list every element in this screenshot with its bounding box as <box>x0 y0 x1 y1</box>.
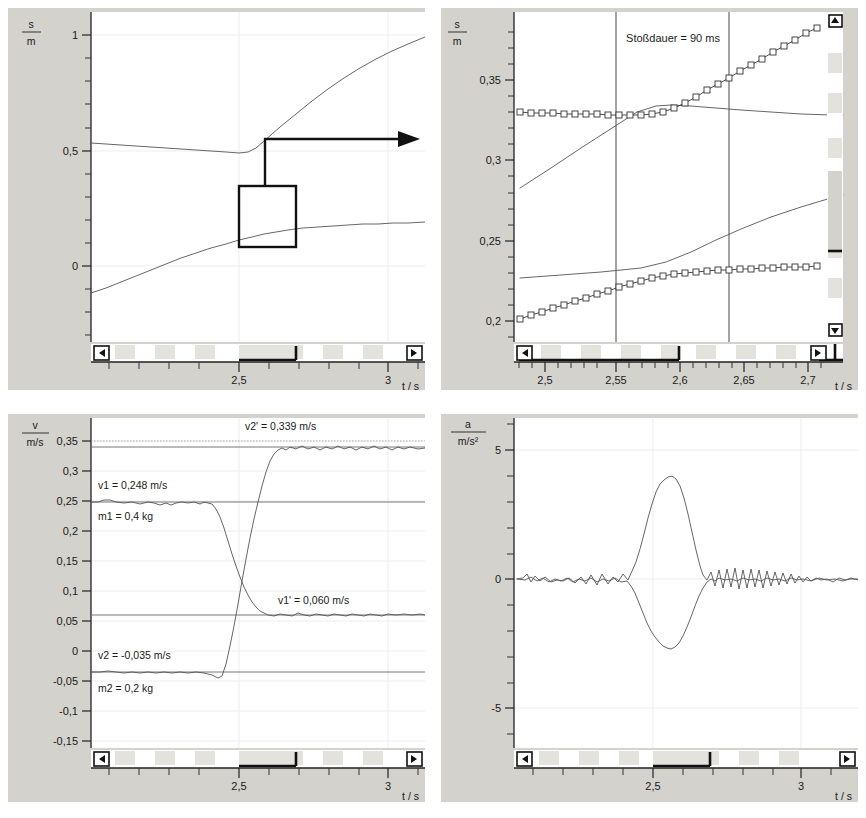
x-tick-label: 3 <box>385 780 391 792</box>
x-axis-label: t / s <box>835 790 852 802</box>
top-left-svg: 1 0,5 0 s m <box>8 8 425 390</box>
panel-displacement-zoomed: 0,35 0,3 0,25 0,2 s m Stoßdauer = 90 ms <box>441 8 858 390</box>
x-tick-label: 2,5 <box>231 374 246 386</box>
plot-area <box>91 12 425 342</box>
y-tick-label: 0,15 <box>57 555 78 567</box>
y-tick-label: 0,2 <box>63 525 78 537</box>
y-tick-label: 0 <box>72 260 78 272</box>
x-tick-label: 2,65 <box>733 374 754 386</box>
y-unit-numerator: s <box>28 18 33 30</box>
y-tick-label: 0,2 <box>486 315 501 327</box>
y-tick-label: 0,3 <box>63 465 78 477</box>
x-tick-label: 2,5 <box>231 780 246 792</box>
annotation-v2: v2 = -0,035 m/s <box>98 649 171 661</box>
horizontal-scrollbar[interactable] <box>514 344 843 362</box>
y-unit-denominator: m <box>453 35 462 47</box>
y-tick-label: 0,1 <box>63 585 78 597</box>
figure-sheet: 1 0,5 0 s m <box>0 0 866 818</box>
top-right-svg: 0,35 0,3 0,25 0,2 s m Stoßdauer = 90 ms <box>441 8 858 390</box>
vscrollbar-thumb[interactable] <box>828 171 842 251</box>
y-tick-label: 0,35 <box>57 435 78 447</box>
x-axis-label: t / s <box>402 790 419 802</box>
plot-area <box>514 12 843 342</box>
y-tick-label: 0 <box>495 573 501 585</box>
y-tick-label: -0,1 <box>59 705 78 717</box>
panel-displacement-overview: 1 0,5 0 s m <box>8 8 425 390</box>
y-tick-label: -5 <box>491 702 501 714</box>
annotation-v1: v1 = 0,248 m/s <box>98 479 167 491</box>
bottom-left-svg: 0,35 0,3 0,25 0,2 0,15 0,1 0,05 0 -0,05 … <box>8 414 425 802</box>
x-tick-label: 3 <box>798 780 804 792</box>
bottom-right-svg: 5 0 -5 a m/s² <box>441 414 858 802</box>
y-unit-numerator: v <box>32 419 38 431</box>
y-unit-denominator: m/s² <box>458 435 479 447</box>
panel-acceleration: 5 0 -5 a m/s² <box>441 414 858 802</box>
y-tick-label: 0,25 <box>57 495 78 507</box>
horizontal-scrollbar[interactable] <box>91 344 425 362</box>
annotation-m2: m2 = 0,2 kg <box>98 682 153 694</box>
plot-area <box>91 418 425 748</box>
y-unit-numerator: s <box>454 18 459 30</box>
x-tick-label: 3 <box>385 374 391 386</box>
annotation-v2-prime: v2' = 0,339 m/s <box>245 420 316 432</box>
vertical-scrollbar[interactable] <box>827 12 843 342</box>
annotation-v1-prime: v1' = 0,060 m/s <box>278 594 349 606</box>
y-unit-denominator: m/s <box>27 436 44 448</box>
collision-duration-annotation: Stoßdauer = 90 ms <box>626 32 720 44</box>
y-tick-label: 5 <box>495 444 501 456</box>
x-axis-label: t / s <box>835 380 852 390</box>
x-tick-label: 2,55 <box>605 374 626 386</box>
y-tick-label: 0 <box>72 645 78 657</box>
y-tick-label: 0,35 <box>480 74 501 86</box>
y-tick-label: 0,05 <box>57 615 78 627</box>
plot-area <box>514 418 858 748</box>
y-unit-denominator: m <box>27 35 36 47</box>
y-unit-numerator: a <box>465 418 471 430</box>
annotation-m1: m1 = 0,4 kg <box>98 510 153 522</box>
x-tick-label: 2,5 <box>645 780 660 792</box>
x-tick-label: 2,7 <box>800 374 815 386</box>
y-tick-label: 0,5 <box>63 145 78 157</box>
y-tick-label: 0,25 <box>480 235 501 247</box>
y-tick-label: -0,15 <box>53 735 78 747</box>
x-tick-label: 2,5 <box>537 374 552 386</box>
x-axis-label: t / s <box>402 380 419 390</box>
horizontal-scrollbar[interactable] <box>514 750 858 768</box>
panel-velocity: 0,35 0,3 0,25 0,2 0,15 0,1 0,05 0 -0,05 … <box>8 414 425 802</box>
y-tick-label: 0,3 <box>486 154 501 166</box>
y-tick-label: -0,05 <box>53 675 78 687</box>
x-tick-label: 2,6 <box>672 374 687 386</box>
y-tick-label: 1 <box>72 29 78 41</box>
horizontal-scrollbar[interactable] <box>91 750 425 768</box>
